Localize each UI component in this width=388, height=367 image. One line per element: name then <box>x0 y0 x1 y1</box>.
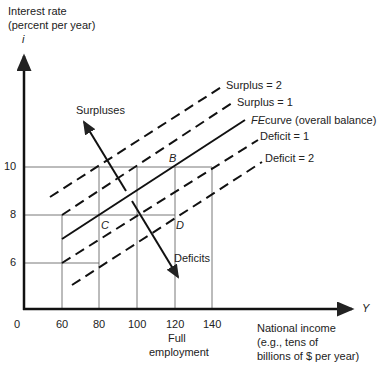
deficit-1-curve <box>62 140 258 263</box>
point-d-label: D <box>176 219 184 232</box>
x-axis-label-line3: billions of $ per year) <box>257 350 359 363</box>
deficits-arrow <box>132 201 178 277</box>
deficits-label: Deficits <box>174 252 210 265</box>
x-tick-100: 100 <box>128 318 146 331</box>
surplus-1-label: Surplus = 1 <box>237 96 293 109</box>
axes <box>23 56 352 310</box>
y-tick-10: 10 <box>4 160 16 173</box>
x-tick-80: 80 <box>93 318 105 331</box>
point-c-label: C <box>101 219 109 232</box>
y-tick-8: 8 <box>10 208 16 221</box>
deficit-1-label: Deficit = 1 <box>260 130 309 143</box>
x-tick-60: 60 <box>56 318 68 331</box>
y-axis-label-line2: (percent per year) <box>8 19 95 32</box>
x-tick-140: 140 <box>203 318 221 331</box>
x-axis-symbol: Y <box>362 302 369 315</box>
deficit-2-label: Deficit = 2 <box>265 152 314 165</box>
gridlines <box>25 167 212 308</box>
x-axis-label-line2: (e.g., tens of <box>257 336 318 349</box>
point-b-label: B <box>169 152 176 165</box>
y-axis-symbol: i <box>22 33 24 46</box>
surpluses-arrow <box>84 122 126 191</box>
y-axis-label-line1: Interest rate <box>8 5 67 18</box>
surpluses-label: Surpluses <box>76 104 125 117</box>
surplus-2-label: Surplus = 2 <box>226 79 282 92</box>
x-tick-120: 120 <box>166 318 184 331</box>
y-tick-6: 6 <box>10 256 16 269</box>
fe-curve <box>62 120 245 239</box>
fe-curve-label: FEcurve (overall balance) <box>251 114 376 127</box>
full-employment-line2: employment <box>149 346 209 359</box>
origin-label: 0 <box>14 318 20 331</box>
x-axis-label-line1: National income <box>257 322 336 335</box>
surplus-2-curve <box>50 86 223 197</box>
diagram-canvas <box>0 0 388 367</box>
full-employment-line1: Full <box>168 332 186 345</box>
